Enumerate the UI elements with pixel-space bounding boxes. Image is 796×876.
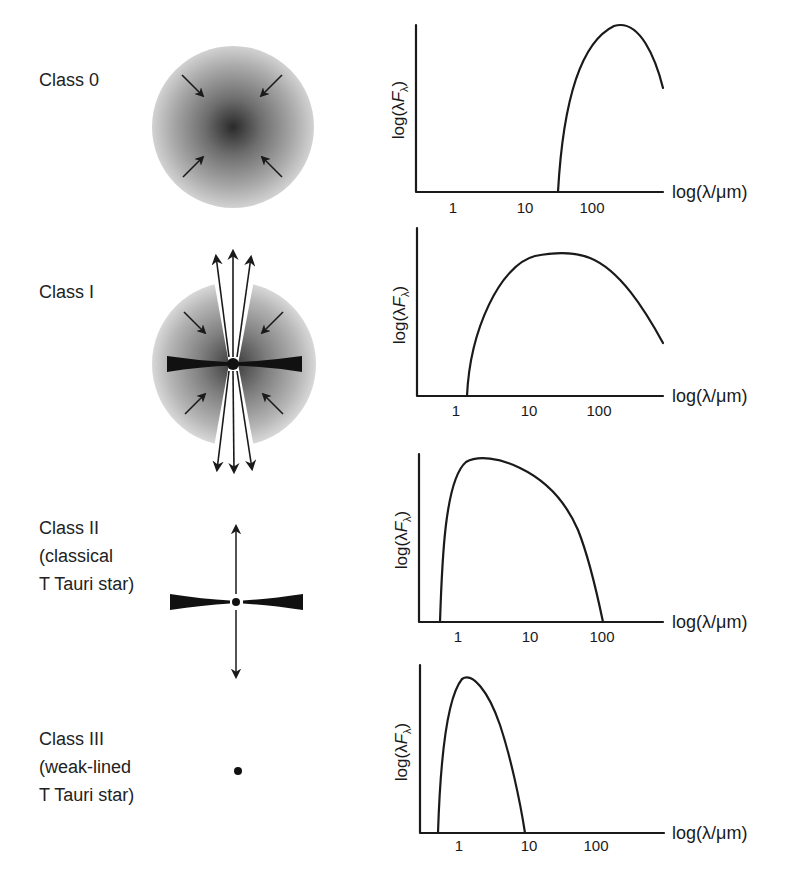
tick-labels-plot-1: 1 10 100 — [449, 199, 605, 216]
svg-text:1: 1 — [454, 628, 462, 645]
protostar-icon — [227, 358, 239, 370]
y-axis-label: log(λFλ) — [390, 286, 411, 344]
plot-axes — [417, 228, 663, 396]
star-icon — [234, 767, 242, 775]
class-2-diagram — [170, 526, 303, 677]
tick-labels-plot-3: 1 10 100 — [454, 628, 615, 645]
y-axis-label: log(λFλ) — [389, 81, 410, 139]
svg-text:100: 100 — [583, 837, 608, 854]
tick-labels-plot-2: 1 10 100 — [452, 402, 612, 419]
envelope-icon — [152, 46, 314, 208]
svg-text:10: 10 — [521, 402, 538, 419]
sed-curve — [467, 253, 663, 396]
svg-text:100: 100 — [579, 199, 604, 216]
svg-text:log(λFλ): log(λFλ) — [390, 286, 411, 344]
svg-text:log(λFλ): log(λFλ) — [389, 81, 410, 139]
svg-text:10: 10 — [517, 199, 534, 216]
y-axis-label: log(λFλ) — [392, 723, 413, 781]
svg-text:10: 10 — [522, 628, 539, 645]
svg-text:100: 100 — [586, 402, 611, 419]
svg-text:1: 1 — [449, 199, 457, 216]
disk-right-icon — [243, 594, 303, 610]
sed-curve — [438, 678, 525, 833]
disk-left-icon — [170, 594, 230, 610]
sed-plot-class-3 — [420, 665, 664, 833]
sed-curve — [558, 25, 663, 192]
yso-classification-figure: 1 10 100 1 10 100 1 10 100 1 10 100 log(… — [0, 0, 796, 876]
x-axis-label: log(λ/μm) — [672, 612, 747, 632]
x-axis-label: log(λ/μm) — [672, 386, 747, 406]
class-1-diagram — [152, 251, 316, 472]
plot-axes — [416, 25, 663, 192]
svg-text:10: 10 — [521, 837, 538, 854]
svg-text:1: 1 — [455, 837, 463, 854]
x-axis-label: log(λ/μm) — [672, 823, 747, 843]
x-axis-label: log(λ/μm) — [672, 182, 747, 202]
tick-labels-plot-4: 1 10 100 — [455, 837, 609, 854]
svg-text:log(λFλ): log(λFλ) — [392, 723, 413, 781]
star-icon — [232, 598, 240, 606]
sed-curve — [440, 458, 603, 622]
sed-plot-class-0 — [416, 25, 663, 192]
class-0-diagram — [152, 46, 314, 208]
class-3-diagram — [234, 767, 242, 775]
y-axis-label: log(λFλ) — [392, 511, 413, 569]
svg-text:100: 100 — [589, 628, 614, 645]
sed-plot-class-2 — [419, 454, 663, 622]
svg-text:log(λFλ): log(λFλ) — [392, 511, 413, 569]
svg-text:1: 1 — [452, 402, 460, 419]
sed-plot-class-1 — [417, 228, 663, 396]
